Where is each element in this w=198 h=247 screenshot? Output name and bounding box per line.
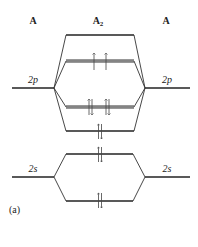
2s-correlation-lines [54, 154, 145, 201]
mo-diagram: A A2 A 2p 2p [0, 0, 198, 247]
pi-2p-level [66, 99, 134, 115]
left-atom-label: A [29, 15, 37, 26]
right-atom-label: A [162, 15, 170, 26]
panel-label: (a) [9, 204, 20, 216]
right-2p-label: 2p [162, 74, 172, 85]
molecule-label-subscript: 2 [100, 20, 104, 28]
sigma-2p-level [66, 124, 134, 139]
pi-star-2p-level [66, 53, 134, 70]
molecule-label: A2 [93, 15, 104, 28]
left-2s-label: 2s [29, 163, 38, 174]
sigma-star-2s-level [66, 147, 133, 162]
left-2s-level: 2s [12, 163, 54, 177]
left-2p-level: 2p [12, 74, 54, 88]
left-2p-label: 2p [28, 74, 38, 85]
right-2s-level: 2s [145, 163, 190, 177]
right-2p-level: 2p [145, 74, 190, 88]
2p-correlation-lines [54, 35, 145, 131]
sigma-2s-level [66, 193, 133, 208]
right-2s-label: 2s [163, 163, 172, 174]
